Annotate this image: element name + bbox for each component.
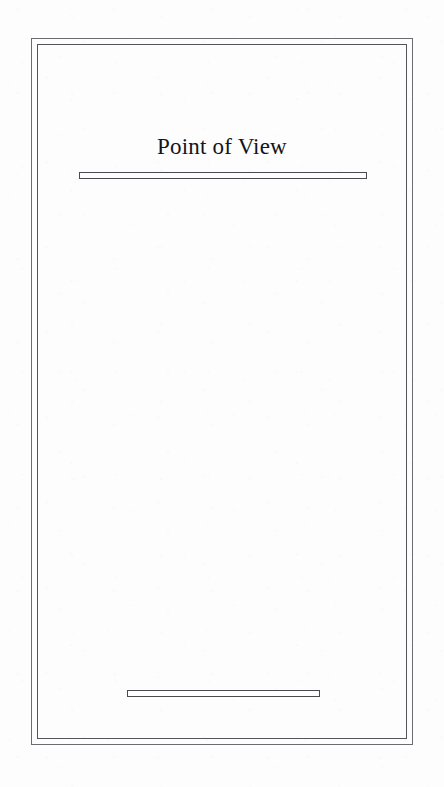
title-block: Point of View [37, 132, 407, 162]
title-page: Point of View [0, 0, 444, 787]
footer-rule-bar [127, 690, 320, 697]
title-rule-bar [79, 172, 367, 179]
page-body [37, 190, 407, 684]
page-title: Point of View [37, 132, 407, 162]
